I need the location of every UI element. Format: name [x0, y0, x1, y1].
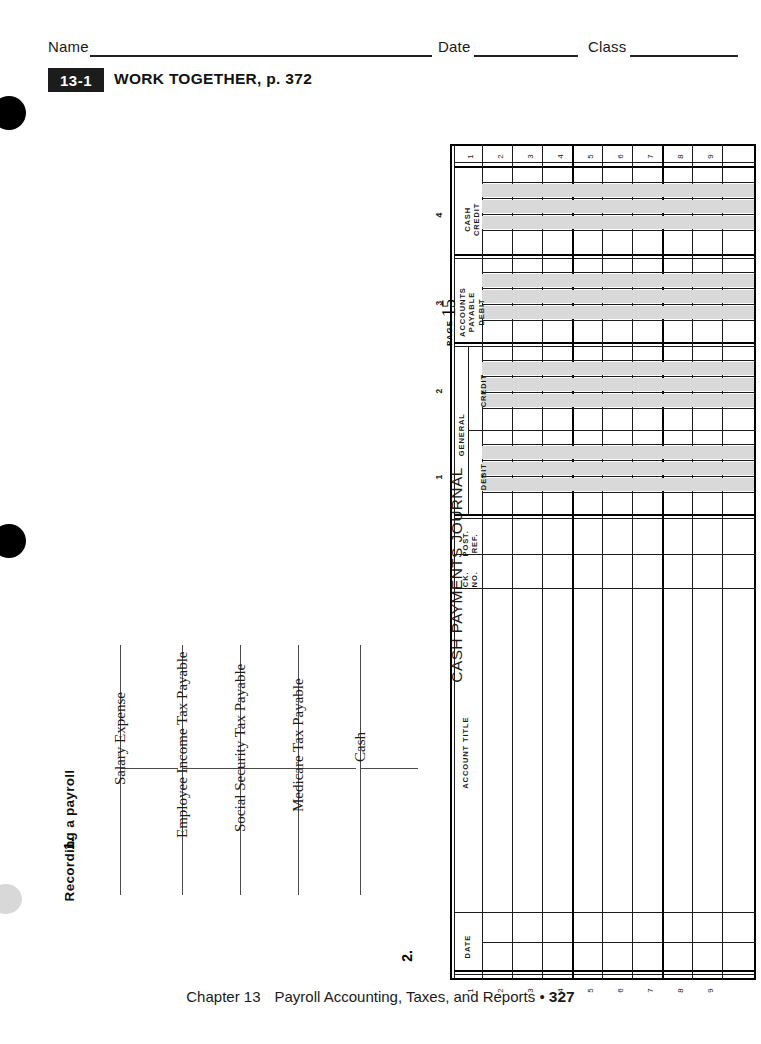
- row-number-top: 3: [526, 147, 535, 167]
- amount-shade: [482, 394, 754, 407]
- ap-label-line3: DEBIT: [477, 299, 486, 326]
- row-number-top: 2: [496, 147, 505, 167]
- col-sep-ckno-accttitle: [454, 588, 756, 589]
- row-number-top: 1: [466, 147, 475, 167]
- row-line-2: [542, 144, 543, 980]
- digit-rule: [482, 272, 754, 273]
- col-sep-general-postref-2: [454, 518, 756, 519]
- col-head-date: DATE: [463, 917, 472, 977]
- amount-shade: [482, 290, 754, 303]
- row-line-3: [572, 144, 574, 980]
- footer-chapter: Chapter 13: [186, 988, 260, 1005]
- col-sep-accttitle-date: [454, 912, 756, 913]
- t-account-label: Cash: [352, 732, 369, 762]
- footer-bullet: •: [539, 988, 544, 1005]
- col-number-1: 1: [434, 468, 444, 486]
- t-account-label: Salary Expense: [112, 692, 129, 785]
- col-head-general-group: GENERAL: [457, 403, 466, 467]
- amount-shade: [482, 274, 754, 287]
- digit-rule: [482, 476, 754, 477]
- row-number-top: 4: [556, 147, 565, 167]
- digit-rule: [482, 408, 754, 409]
- t-account-group: Salary Expense Employee Income Tax Payab…: [0, 0, 420, 1000]
- row-number-top: 5: [586, 147, 595, 167]
- journal-outer-rule: [450, 144, 452, 980]
- page-word: PAGE: [445, 320, 454, 346]
- t-account-label: Social Security Tax Payable: [232, 664, 249, 832]
- digit-rule: [482, 320, 754, 321]
- col-head-account-title: ACCOUNT TITLE: [461, 705, 470, 801]
- amount-shade: [482, 446, 754, 459]
- col-head-general-credit: CREDIT: [479, 361, 488, 421]
- row-number-top: 8: [676, 147, 685, 167]
- digit-rule: [482, 198, 754, 199]
- col-sep-postref-ckno: [454, 554, 756, 555]
- row-number-top: 6: [616, 147, 625, 167]
- col-number-4: 4: [434, 206, 444, 224]
- ckno-line1: CK.: [461, 572, 470, 588]
- col-number-2: 2: [434, 382, 444, 400]
- class-label: Class: [588, 38, 627, 55]
- digit-rule: [482, 360, 754, 361]
- journal-bottom-rule: [754, 144, 756, 980]
- digit-rule: [482, 230, 754, 231]
- page-footer: Chapter 13Payroll Accounting, Taxes, and…: [0, 988, 761, 1006]
- col-sep-ap-general: [454, 342, 756, 344]
- journal-outer-rule-2: [454, 144, 455, 980]
- t-account-crossbar: [360, 768, 418, 769]
- t-account-label: Employee Income Tax Payable: [174, 651, 191, 838]
- footer-title: Payroll Accounting, Taxes, and Reports: [275, 988, 536, 1005]
- col-sep-cash-ap-2: [454, 258, 756, 259]
- general-group-bracket: [468, 346, 469, 514]
- row-line-5: [632, 144, 633, 980]
- col-head-general-debit: DEBIT: [479, 447, 488, 507]
- digit-rule: [482, 288, 754, 289]
- col-sep-date-rownum-2: [454, 974, 756, 975]
- col-head-ck-no: CK. NO.: [461, 549, 480, 609]
- col-head-cash-credit: CASH CREDIT: [463, 187, 482, 251]
- digit-rule: [482, 444, 754, 445]
- ckno-line2: NO.: [470, 571, 479, 587]
- ap-label-line1: ACCOUNTS: [458, 287, 467, 337]
- row-line-1: [512, 144, 513, 980]
- col-sep-ap-general-2: [454, 346, 756, 347]
- col-sep-cash-ap: [454, 254, 756, 256]
- cash-label-line2: CREDIT: [472, 203, 481, 236]
- row-line-4: [602, 144, 603, 980]
- digit-rule: [482, 304, 754, 305]
- col-head-accounts-payable-debit: ACCOUNTS PAYABLE DEBIT: [458, 278, 486, 346]
- amount-shade: [482, 478, 754, 491]
- amount-shade: [482, 462, 754, 475]
- ap-label-line2: PAYABLE: [467, 292, 476, 332]
- amount-shade: [482, 200, 754, 213]
- col-sep-date-split: [482, 942, 756, 943]
- row-number-top: 7: [646, 147, 655, 167]
- row-line-6: [662, 144, 664, 980]
- t-account-stem: [360, 645, 361, 895]
- class-blank-line[interactable]: [630, 55, 738, 57]
- digit-rule: [482, 392, 754, 393]
- t-account-label: Medicare Tax Payable: [290, 678, 307, 812]
- digit-rule: [482, 214, 754, 215]
- date-label: Date: [438, 38, 471, 55]
- amount-shade: [482, 184, 754, 197]
- row-line-8: [722, 144, 723, 980]
- row-number-top: 9: [706, 147, 715, 167]
- digit-rule: [482, 376, 754, 377]
- amount-shade: [482, 306, 754, 319]
- cash-label-line1: CASH: [463, 207, 472, 232]
- amount-shade: [482, 378, 754, 391]
- col-sep-date-rownum: [454, 970, 756, 972]
- amount-shade: [482, 216, 754, 229]
- cash-payments-journal[interactable]: CASH PAYMENTS JOURNAL PAGE15: [424, 136, 761, 984]
- date-blank-line[interactable]: [474, 55, 578, 57]
- footer-page-number: 327: [549, 988, 575, 1005]
- row-line-7: [692, 144, 693, 980]
- digit-rule: [482, 460, 754, 461]
- col-sep-general-postref: [454, 514, 756, 516]
- col-number-3: 3: [434, 294, 444, 312]
- digit-rule: [482, 492, 754, 493]
- row-line-0: [482, 144, 483, 980]
- amount-shade: [482, 362, 754, 375]
- digit-rule: [482, 182, 754, 183]
